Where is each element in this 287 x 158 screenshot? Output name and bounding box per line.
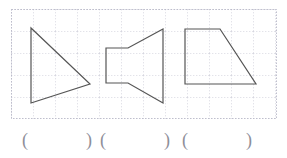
close-paren-2: )	[164, 131, 170, 149]
shape-right-trapezoid	[185, 29, 256, 84]
shape-megaphone-hexagon	[106, 29, 163, 103]
worksheet: ( ) ( ) ( )	[0, 0, 287, 158]
answer-slot-1[interactable]: ( )	[22, 127, 92, 153]
answer-slot-3[interactable]: ( )	[182, 127, 252, 153]
answer-slot-2[interactable]: ( )	[100, 127, 170, 153]
close-paren-1: )	[86, 131, 92, 149]
open-paren-3: (	[182, 131, 188, 149]
shape-triangle	[31, 28, 90, 103]
open-paren-1: (	[22, 131, 28, 149]
open-paren-2: (	[100, 131, 106, 149]
close-paren-3: )	[246, 131, 252, 149]
